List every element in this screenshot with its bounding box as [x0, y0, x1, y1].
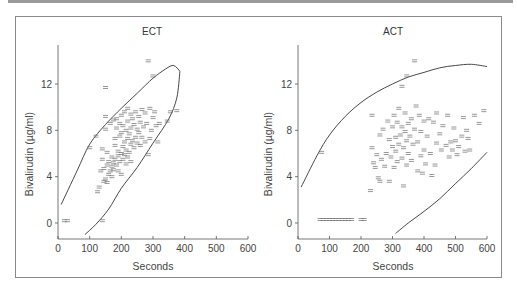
y-tick-label: 8 [286, 125, 292, 136]
data-point [114, 164, 119, 166]
data-point [376, 177, 381, 179]
data-point [117, 122, 122, 124]
data-point [373, 166, 378, 168]
plot-area: 010020030040050060004812 [41, 45, 257, 254]
data-point [396, 143, 401, 145]
data-point [135, 142, 140, 144]
data-point [136, 115, 141, 117]
data-point [136, 132, 141, 134]
data-point [116, 150, 121, 152]
data-point [455, 154, 460, 156]
data-point [98, 170, 103, 172]
figure: ECT Seconds Bivalirudin (µg/ml) 01002003… [0, 0, 517, 293]
data-point [113, 137, 118, 139]
panel-ect: ECT Seconds Bivalirudin (µg/ml) 01002003… [23, 26, 257, 272]
data-point [144, 122, 149, 124]
data-point [151, 117, 156, 119]
data-point [399, 85, 404, 87]
data-point [133, 136, 138, 138]
data-point [403, 130, 408, 132]
data-point [370, 147, 375, 149]
data-point [143, 141, 148, 143]
data-point [456, 146, 461, 148]
data-point [151, 75, 156, 77]
x-tick-label: 200 [353, 243, 370, 254]
data-point [138, 121, 143, 123]
data-point [377, 134, 382, 136]
data-point [138, 144, 143, 146]
data-point [420, 172, 425, 174]
data-point [390, 126, 395, 128]
data-point [119, 173, 124, 175]
data-point [133, 111, 138, 113]
data-point [409, 159, 414, 161]
data-point [404, 75, 409, 77]
data-point [390, 146, 395, 148]
data-point [119, 114, 124, 116]
data-point [403, 112, 408, 114]
data-point [111, 162, 116, 164]
data-point [128, 127, 133, 129]
data-point [431, 121, 436, 123]
data-point [393, 136, 398, 138]
data-point [481, 110, 486, 112]
data-point [399, 157, 404, 159]
data-point [135, 128, 140, 130]
data-point [395, 121, 400, 123]
data-point [122, 141, 127, 143]
data-point [445, 114, 450, 116]
plot-area: 010020030040050060004812 [281, 45, 496, 254]
data-point [377, 180, 382, 182]
data-point [124, 129, 129, 131]
data-point [422, 120, 427, 122]
data-point [459, 135, 464, 137]
data-point [117, 161, 122, 163]
data-point [387, 180, 392, 182]
data-point [406, 122, 411, 124]
data-point [404, 164, 409, 166]
data-point [464, 129, 469, 131]
data-point [429, 175, 434, 177]
data-point [157, 122, 162, 124]
data-point [116, 170, 121, 172]
data-point [371, 162, 376, 164]
data-point [433, 164, 438, 166]
data-point [139, 108, 144, 110]
data-point [120, 158, 125, 160]
data-point [406, 153, 411, 155]
data-point [106, 173, 111, 175]
data-point [114, 127, 119, 129]
data-point [125, 156, 130, 158]
data-point [379, 158, 384, 160]
data-point [132, 124, 137, 126]
data-point [113, 144, 118, 146]
data-point [396, 107, 401, 109]
prediction-ellipse-lower [85, 71, 180, 234]
data-point [100, 220, 105, 222]
data-point [418, 155, 423, 157]
data-point [349, 219, 354, 221]
data-point [477, 122, 482, 124]
data-point [65, 220, 70, 222]
data-point [393, 150, 398, 152]
y-tick-label: 0 [46, 218, 52, 229]
data-point [426, 118, 431, 120]
data-point [447, 156, 452, 158]
data-point [130, 140, 135, 142]
data-point [467, 149, 472, 151]
data-point [392, 166, 397, 168]
data-point [385, 120, 390, 122]
data-point [428, 153, 433, 155]
data-point [440, 125, 445, 127]
data-point [461, 117, 466, 119]
data-point [141, 126, 146, 128]
data-point [453, 140, 458, 142]
data-point [412, 128, 417, 130]
data-point [124, 163, 129, 165]
data-point [100, 148, 105, 150]
data-point [120, 125, 125, 127]
data-point [103, 178, 108, 180]
x-tick-label: 600 [240, 243, 257, 254]
data-point [437, 133, 442, 135]
x-tick-label: 300 [384, 243, 401, 254]
